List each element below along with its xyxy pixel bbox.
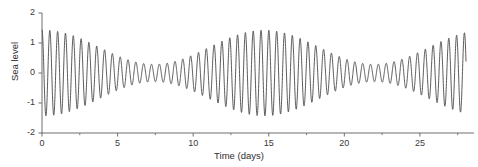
y-axis-tick-label: 2 (2, 8, 35, 17)
x-axis-tick-label: 10 (178, 139, 208, 148)
x-axis-tick-label: 0 (27, 139, 57, 148)
x-axis-tick-label: 5 (103, 139, 133, 148)
y-axis-tick-label: 0 (2, 68, 35, 77)
tide-chart-figure: Sea level Time (days) -2-10120510152025 (0, 0, 478, 167)
y-axis-tick-label: 1 (2, 38, 35, 47)
sea-level-series-line (42, 30, 466, 116)
x-axis-label: Time (days) (0, 150, 478, 161)
x-axis-tick-label: 15 (254, 139, 284, 148)
y-axis-tick-label: -1 (2, 98, 35, 107)
x-axis-tick-label: 25 (405, 139, 435, 148)
x-axis-tick-label: 20 (329, 139, 359, 148)
y-axis-tick-label: -2 (2, 128, 35, 137)
